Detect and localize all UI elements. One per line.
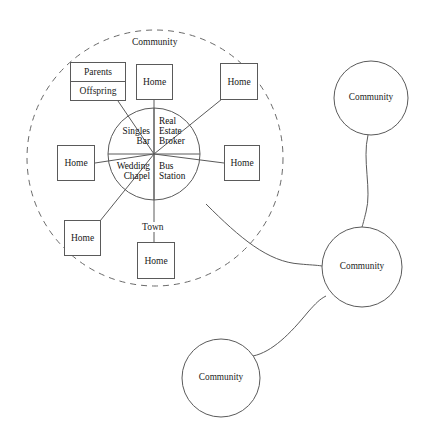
home-top-label: Home (143, 77, 166, 87)
community-bottom-label: Community (181, 372, 261, 382)
diagram-root: Community Parents Offspring Home Home Ho… (0, 0, 432, 439)
outer-community-label: Community (130, 37, 179, 47)
home-left-box[interactable]: Home (57, 145, 95, 181)
connector-community-bottom-to-middle-right (253, 296, 326, 356)
offspring-row: Offspring (71, 82, 125, 101)
wedding-chapel-line-2: Chapel (100, 171, 150, 181)
town-label: Town (140, 222, 166, 232)
parents-offspring-box[interactable]: Parents Offspring (70, 62, 126, 101)
singles-bar-line-2: Bar (106, 136, 150, 146)
home-left-label: Home (64, 158, 87, 168)
community-top-right-label: Community (331, 92, 411, 102)
home-bottom-left-box[interactable]: Home (64, 220, 101, 256)
wedding-chapel-line-1: Wedding (100, 161, 150, 171)
connector-community-top-right-to-middle-right (362, 135, 368, 227)
home-bottom-label: Home (144, 256, 167, 266)
singles-bar-line-1: Singles (106, 126, 150, 136)
parents-label: Parents (84, 67, 112, 77)
home-bottom-left-label: Home (71, 233, 94, 243)
real-estate-broker-line-3: Broker (159, 136, 205, 146)
real-estate-broker-line-1: Real (159, 116, 205, 126)
quadrant-wedding-chapel: Wedding Chapel (100, 161, 150, 181)
community-middle-right-label: Community (322, 261, 402, 271)
home-top-right-label: Home (227, 77, 250, 87)
offspring-label: Offspring (80, 86, 117, 96)
connector-town-to-community-middle-right (206, 204, 322, 266)
parents-row: Parents (71, 63, 125, 82)
quadrant-bus-station: Bus Station (159, 161, 205, 181)
quadrant-singles-bar: Singles Bar (106, 126, 150, 146)
home-right-label: Home (230, 158, 253, 168)
real-estate-broker-line-2: Estate (159, 126, 205, 136)
bus-station-line-2: Station (159, 171, 205, 181)
bus-station-line-1: Bus (159, 161, 205, 171)
home-top-box[interactable]: Home (136, 64, 173, 100)
home-right-box[interactable]: Home (224, 145, 260, 181)
home-top-right-box[interactable]: Home (220, 63, 258, 100)
quadrant-real-estate-broker: Real Estate Broker (159, 116, 205, 146)
home-bottom-box[interactable]: Home (137, 242, 175, 279)
